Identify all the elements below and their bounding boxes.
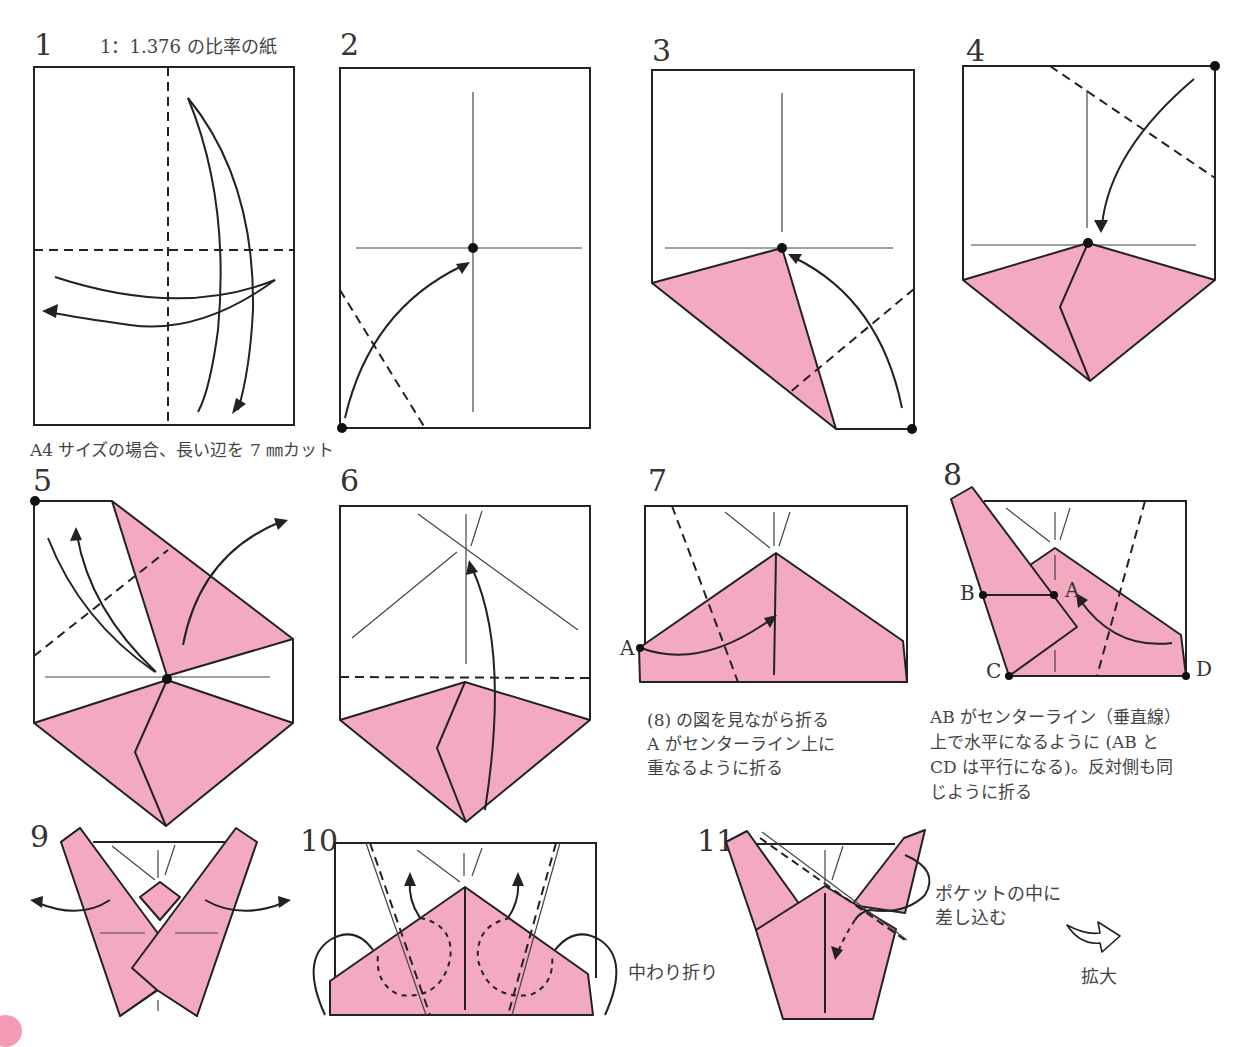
enlarge-label: 拡大 — [1081, 965, 1117, 989]
